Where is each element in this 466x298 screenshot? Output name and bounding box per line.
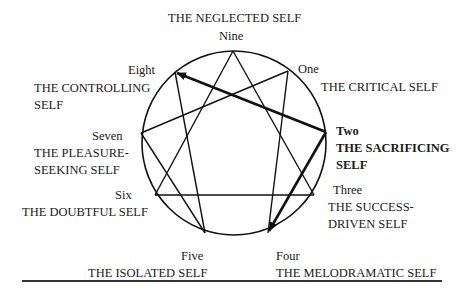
label-six-name: THE DOUBTFUL SELF	[22, 202, 148, 222]
label-nine-name: THE NEGLECTED SELF	[168, 8, 301, 28]
label-three-name-2: DRIVEN SELF	[328, 214, 408, 234]
label-eight-number: Eight	[128, 60, 155, 80]
line-one-four	[268, 71, 288, 233]
label-one-name: THE CRITICAL SELF	[321, 77, 438, 97]
label-eight-name-2: SELF	[34, 95, 63, 115]
label-nine-number: Nine	[219, 26, 243, 46]
line-one-seven	[141, 71, 288, 133]
bottom-rule	[22, 280, 442, 282]
label-two-name-2: SELF	[336, 155, 367, 175]
label-seven-name-2: SEEKING SELF	[34, 160, 120, 180]
label-one-number: One	[298, 59, 319, 79]
